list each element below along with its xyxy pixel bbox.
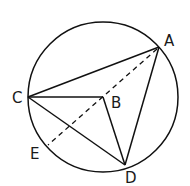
segment-ca <box>28 47 159 97</box>
label-e: E <box>30 145 39 163</box>
geometry-diagram: A B C D E <box>0 0 190 186</box>
label-d: D <box>125 169 137 186</box>
label-a: A <box>164 32 175 50</box>
segment-ad <box>125 47 159 165</box>
label-c: C <box>12 89 22 107</box>
label-b: B <box>111 94 121 112</box>
